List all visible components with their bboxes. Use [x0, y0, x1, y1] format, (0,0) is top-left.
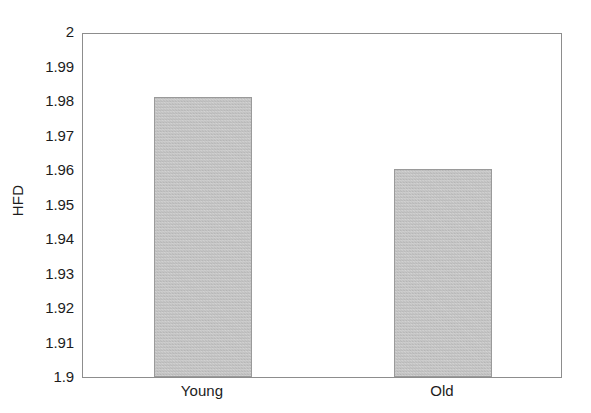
y-tick-label: 1.94 — [45, 230, 74, 247]
y-tick-label: 1.93 — [45, 265, 74, 282]
x-tick-label-young: Young — [82, 382, 322, 399]
figure-canvas: HFD 1.91.911.921.931.941.951.961.971.981… — [0, 0, 591, 413]
y-axis-title: HFD — [0, 0, 40, 413]
y-tick-label: 1.95 — [45, 196, 74, 213]
bar-young[interactable] — [154, 97, 251, 377]
y-tick-label: 1.98 — [45, 92, 74, 109]
y-tick-label: 1.99 — [45, 58, 74, 75]
x-tick-label-old: Old — [322, 382, 562, 399]
bar-old[interactable] — [394, 169, 491, 377]
y-tick-label: 1.9 — [53, 368, 74, 385]
y-tick-label: 1.91 — [45, 334, 74, 351]
y-tick-label: 1.92 — [45, 299, 74, 316]
plot-area — [82, 33, 562, 378]
y-axis-title-text: HFD — [10, 185, 27, 216]
y-tick-label: 1.97 — [45, 127, 74, 144]
y-tick-label: 2 — [66, 23, 74, 40]
y-tick-label: 1.96 — [45, 161, 74, 178]
